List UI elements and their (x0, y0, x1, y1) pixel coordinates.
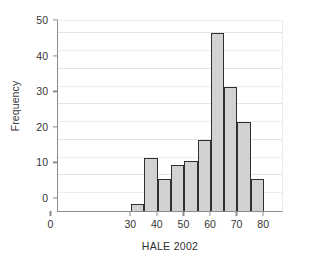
histogram-bar (171, 165, 184, 211)
y-tick-label: 20 (36, 121, 53, 133)
histogram-figure: Frequency 01020304050 0304050607080 HALE… (0, 0, 312, 265)
histogram-bar (184, 161, 197, 211)
y-tick-mark (53, 162, 58, 163)
y-tick: 30 (36, 85, 58, 98)
x-axis-title: HALE 2002 (57, 240, 283, 252)
plot-area: 01020304050 0304050607080 (57, 20, 283, 212)
y-tick-label: 50 (36, 15, 53, 27)
histogram-bar (144, 158, 157, 211)
y-tick-mark (53, 19, 58, 20)
y-tick-label: 40 (36, 50, 53, 62)
y-tick: 40 (36, 49, 58, 62)
y-tick: 0 (42, 191, 58, 204)
y-tick-label: 30 (36, 86, 53, 98)
x-tick-label: 0 (36, 218, 66, 230)
y-tick: 20 (36, 120, 58, 133)
gridline-minor (58, 86, 282, 87)
y-tick-label: 10 (36, 157, 53, 169)
x-tick-mark (50, 211, 51, 216)
x-tick: 80 (233, 211, 278, 230)
gridline-minor (58, 50, 282, 51)
y-tick-mark (53, 91, 58, 92)
y-axis-title: Frequency (6, 0, 24, 212)
y-tick-mark (53, 197, 58, 198)
gridline-major (58, 68, 282, 69)
x-tick-mark (263, 211, 264, 216)
x-tick-label: 80 (248, 218, 278, 230)
y-tick-label: 0 (42, 192, 53, 204)
histogram-bar (211, 33, 224, 211)
x-tick: 0 (21, 211, 66, 230)
histogram-bar (251, 179, 264, 211)
histogram-bar (224, 87, 237, 211)
histogram-bar (131, 204, 144, 211)
histogram-bar (158, 179, 171, 211)
y-tick-mark (53, 55, 58, 56)
histogram-bar (237, 122, 250, 211)
y-tick: 50 (36, 13, 58, 26)
y-tick-mark (53, 126, 58, 127)
gridline-major (58, 103, 282, 104)
y-axis-title-label: Frequency (9, 81, 21, 132)
gridline-major (58, 32, 282, 33)
histogram-bar (198, 140, 211, 211)
y-tick: 10 (36, 156, 58, 169)
